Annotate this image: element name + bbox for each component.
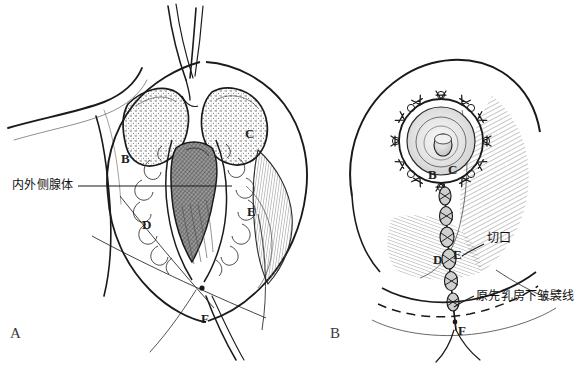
panel-b-marker-e: E [453, 248, 462, 261]
panel-a-label: A [10, 326, 21, 341]
panel-a-marker-f: F [201, 312, 209, 325]
panel-b-terminal-knot [453, 320, 458, 325]
panel-a-marker-d: D [142, 218, 151, 231]
figure-root: 内外侧腺体 B C D E F A B C D E F 切口 原先乳房下皱襞线 … [0, 0, 574, 366]
panel-b-annotation-incision: 切口 [487, 232, 512, 244]
panel-a-annotation-glands: 内外侧腺体 [12, 179, 74, 191]
panel-a-marker-b: B [121, 152, 130, 165]
panel-b-marker-b: B [428, 168, 437, 181]
panel-b-marker-c: C [448, 163, 457, 176]
panel-b-marker-d: D [433, 253, 442, 266]
panel-b-nipple-tip [435, 134, 452, 144]
panel-b-marker-f: F [458, 324, 466, 337]
panel-b-annotation-original-fold: 原先乳房下皱襞线 [476, 290, 574, 302]
panel-a-marker-e: E [247, 205, 256, 218]
panel-b-label: B [330, 326, 340, 341]
surgical-illustration-svg [0, 0, 574, 366]
panel-a-marker-c: C [245, 127, 254, 140]
